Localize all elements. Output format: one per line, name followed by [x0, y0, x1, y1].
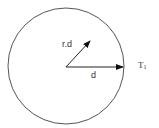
boundary-circle [8, 8, 124, 124]
boundary-label-t1: T1 [138, 61, 147, 70]
diagram-canvas [0, 0, 159, 128]
vector-d-label: d [91, 71, 96, 80]
boundary-label-subscript: 1 [144, 64, 147, 70]
vector-rd-label: r.d [62, 40, 72, 49]
